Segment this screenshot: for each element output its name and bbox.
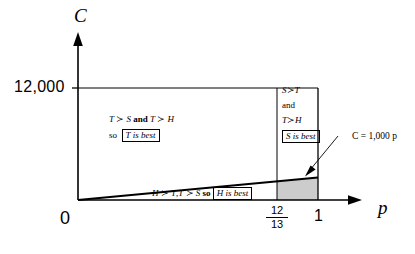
- y-axis-label: C: [74, 6, 87, 25]
- region-note-t-best: T ≻ S and T ≻ H so T is best: [109, 113, 174, 142]
- equation-coefficient: 1,000: [368, 131, 389, 141]
- region-note-s-best: S≻T and T≻H S is best: [282, 86, 320, 143]
- pref-bottom-rel1: ≻: [161, 188, 169, 198]
- annotation-arrowhead: [305, 166, 316, 177]
- pref-bottom-so: so: [203, 188, 211, 198]
- fraction-numerator: 12: [266, 205, 288, 217]
- conclusion-box-h: H is best: [213, 187, 253, 200]
- y-tick-label-12000: 12,000: [14, 79, 65, 95]
- pref-right-b: T: [295, 85, 300, 95]
- pref-left-so: so: [109, 130, 117, 140]
- y-axis-arrowhead: [73, 32, 83, 46]
- conclusion-text-h: is best: [226, 188, 249, 198]
- pref-right-and: and: [282, 100, 295, 110]
- x-axis-arrowhead: [348, 195, 362, 205]
- conclusion-box-t: T is best: [122, 129, 160, 142]
- pref-left-d: H: [168, 114, 175, 124]
- pref-bottom-rel2: ≻: [186, 188, 194, 198]
- equation-p-symbol: p: [392, 131, 397, 141]
- decision-region-figure: C p 0 12,000 12 13 1 T ≻ S and T ≻ H so …: [0, 0, 415, 254]
- origin-label: 0: [60, 209, 70, 227]
- fraction-denominator: 13: [266, 219, 288, 231]
- pref-right-rel: ≻: [287, 85, 295, 95]
- region-note-h-best: H ≻ T,T ≻ S so H is best: [152, 187, 252, 200]
- x-tick-label-1: 1: [314, 208, 323, 224]
- region-note-t-best-line2: so T is best: [109, 129, 174, 142]
- x-axis-label: p: [378, 198, 388, 217]
- conclusion-text-t: is best: [133, 130, 156, 140]
- pref-right-rel2: ≻: [287, 115, 295, 125]
- region-note-s-best-line3: T≻H: [282, 116, 320, 125]
- conclusion-text-s: is best: [293, 131, 316, 141]
- x-tick-label-12-13: 12 13: [266, 205, 288, 230]
- pref-left-and: and: [133, 114, 148, 124]
- pref-right-d: H: [295, 115, 302, 125]
- conclusion-box-s: S is best: [282, 130, 320, 143]
- region-note-s-best-line4: S is best: [282, 130, 320, 143]
- equation-annotation: C = 1,000 p: [352, 131, 397, 141]
- region-note-s-best-line1: S≻T: [282, 86, 320, 95]
- region-note-s-best-line2: and: [282, 101, 320, 110]
- region-note-t-best-line1: T ≻ S and T ≻ H: [109, 113, 174, 126]
